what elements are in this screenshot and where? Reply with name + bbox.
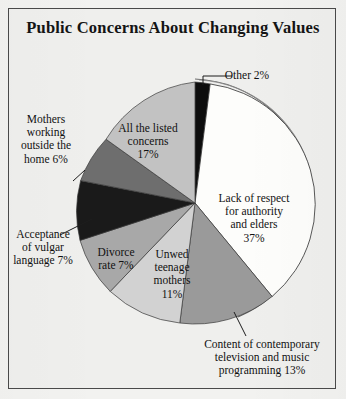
callout-label-other: Other 2%	[213, 69, 281, 82]
slice-label-lack-of-respect: Lack of respect for authority and elders…	[196, 192, 312, 245]
slice-label-unwed-teenage-mothers: Unwed teenage mothers 11%	[136, 248, 208, 301]
chart-page: Public Concerns About Changing Values	[0, 0, 346, 399]
callout-label-mothers-working: Mothers working outside the home 6%	[11, 113, 81, 166]
slice-label-divorce-rate: Divorce rate 7%	[88, 246, 144, 272]
callout-label-vulgar-language: Acceptance of vulgar language 7%	[6, 228, 80, 268]
slice-label-all-listed-concerns: All the listed concerns 17%	[100, 122, 196, 162]
callout-label-tv-music-content: Content of contemporary television and m…	[186, 338, 338, 378]
